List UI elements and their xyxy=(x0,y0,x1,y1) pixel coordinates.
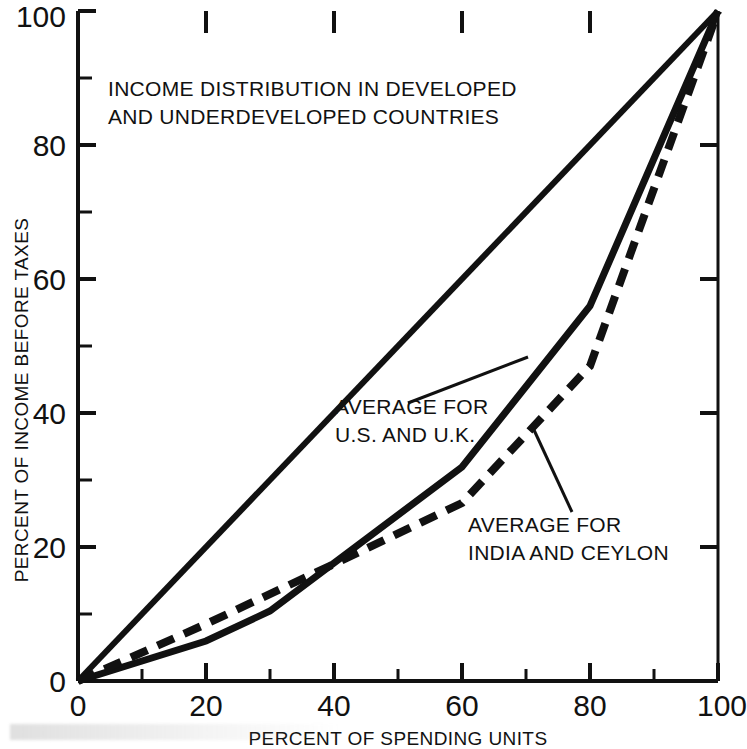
annotation-india-ceylon-line-1: AVERAGE FOR xyxy=(468,513,621,536)
x-tick-label-100: 100 xyxy=(697,689,747,722)
y-tick-label-40: 40 xyxy=(33,397,66,430)
annotation-us-uk-line-1: AVERAGE FOR xyxy=(335,395,488,418)
x-tick-label-40: 40 xyxy=(317,689,350,722)
y-tick-label-0: 0 xyxy=(49,665,66,698)
chart-figure: 0 20 40 60 80 100 0 20 40 60 80 100 PERC… xyxy=(0,0,747,749)
y-axis-title: PERCENT OF INCOME BEFORE TAXES xyxy=(11,218,32,583)
x-tick-label-60: 60 xyxy=(445,689,478,722)
x-axis-title: PERCENT OF SPENDING UNITS xyxy=(249,728,548,749)
lorenz-curve-chart: 0 20 40 60 80 100 0 20 40 60 80 100 PERC… xyxy=(0,0,747,749)
x-tick-label-20: 20 xyxy=(189,689,222,722)
chart-title-line-2: AND UNDERDEVELOPED COUNTRIES xyxy=(108,105,499,128)
chart-title-line-1: INCOME DISTRIBUTION IN DEVELOPED xyxy=(108,77,517,100)
annotation-us-uk-line-2: U.S. AND U.K. xyxy=(335,423,475,446)
y-tick-label-80: 80 xyxy=(33,129,66,162)
y-tick-label-20: 20 xyxy=(33,531,66,564)
y-tick-label-60: 60 xyxy=(33,263,66,296)
annotation-india-ceylon-line-2: INDIA AND CEYLON xyxy=(468,541,669,564)
y-tick-label-100: 100 xyxy=(16,0,66,33)
x-tick-label-80: 80 xyxy=(573,689,606,722)
x-tick-label-0: 0 xyxy=(70,689,87,722)
